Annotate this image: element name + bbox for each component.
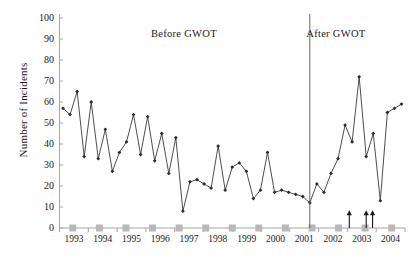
annotation-arrow-head (370, 210, 375, 215)
data-point-marker (216, 144, 220, 148)
data-point-marker (385, 111, 389, 115)
baseline-marker (362, 225, 369, 232)
baseline-marker (282, 225, 289, 232)
baseline-marker (388, 225, 395, 232)
baseline-marker (149, 225, 156, 232)
data-point-marker (167, 172, 171, 176)
data-point-marker (195, 178, 199, 182)
baseline-marker (202, 225, 209, 232)
data-point-marker (132, 113, 136, 117)
data-point-marker (378, 199, 382, 203)
data-point-marker (96, 157, 100, 161)
baseline-marker (229, 225, 236, 232)
data-point-marker (357, 75, 361, 79)
annotation-arrow-head (347, 210, 352, 215)
baseline-marker (69, 225, 76, 232)
data-point-marker (329, 172, 333, 176)
data-point-marker (287, 190, 291, 194)
data-point-marker (371, 132, 375, 136)
data-point-marker (202, 182, 206, 186)
data-point-marker (160, 132, 164, 136)
data-point-marker (266, 151, 270, 155)
baseline-marker (335, 225, 342, 232)
data-point-marker (393, 106, 397, 110)
data-point-marker (400, 102, 404, 106)
data-point-marker (82, 155, 86, 159)
baseline-marker (122, 225, 129, 232)
data-point-marker (230, 165, 234, 169)
data-point-marker (364, 155, 368, 159)
data-series-line (63, 77, 401, 211)
data-point-marker (273, 190, 277, 194)
data-point-marker (350, 140, 354, 144)
data-point-marker (174, 136, 178, 140)
data-point-marker (146, 115, 150, 119)
baseline-marker (96, 225, 103, 232)
data-point-marker (75, 90, 79, 94)
data-point-marker (89, 100, 93, 104)
data-point-marker (209, 186, 213, 190)
data-point-marker (223, 188, 227, 192)
data-point-marker (103, 127, 107, 131)
plot-canvas (0, 0, 412, 262)
data-point-marker (343, 123, 347, 127)
data-point-marker (280, 188, 284, 192)
data-point-marker (139, 153, 143, 157)
incidents-line-chart: Number of Incidents 01020304050607080901… (0, 0, 412, 262)
baseline-marker (255, 225, 262, 232)
data-point-marker (188, 180, 192, 184)
baseline-marker (176, 225, 183, 232)
data-point-marker (294, 193, 298, 197)
data-point-marker (336, 157, 340, 161)
data-point-marker (153, 159, 157, 163)
data-point-marker (181, 209, 185, 213)
data-point-marker (110, 169, 114, 173)
annotation-arrow-head (364, 210, 369, 215)
